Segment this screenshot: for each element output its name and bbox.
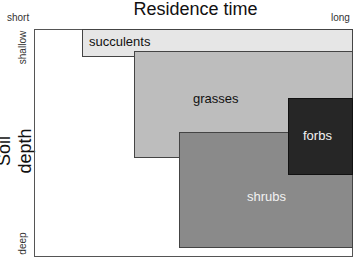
x-axis-short-label: short xyxy=(7,12,29,23)
region-forbs: forbs xyxy=(288,98,353,175)
diagram-title: Residence time xyxy=(0,0,361,20)
y-axis-shallow-label: shallow xyxy=(17,23,28,73)
x-axis-long-label: long xyxy=(331,12,350,23)
region-label-succulents: succulents xyxy=(89,34,150,49)
region-label-shrubs: shrubs xyxy=(247,189,286,204)
y-axis-deep-label: deep xyxy=(17,219,28,269)
region-label-forbs: forbs xyxy=(303,128,332,143)
y-axis-title: Soil depth xyxy=(0,111,36,191)
region-label-grasses: grasses xyxy=(193,91,239,106)
